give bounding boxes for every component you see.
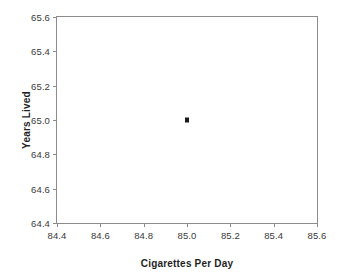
y-axis-title: Years Lived — [18, 16, 36, 224]
x-axis-tick-label: 84.6 — [91, 230, 110, 241]
scatter-plot-figure: 64.464.664.865.065.265.465.684.484.684.8… — [0, 0, 344, 280]
y-axis-tick — [53, 51, 57, 52]
x-axis-tick — [187, 223, 188, 227]
y-axis-tick — [53, 189, 57, 190]
y-axis-tick — [53, 17, 57, 18]
plot-frame: 64.464.664.865.065.265.465.684.484.684.8… — [56, 16, 318, 224]
y-axis-tick — [53, 120, 57, 121]
x-axis-tick — [274, 223, 275, 227]
x-axis-tick-label: 85.4 — [264, 230, 283, 241]
x-axis-tick — [57, 223, 58, 227]
x-axis-tick — [230, 223, 231, 227]
x-axis-tick-label: 85.0 — [178, 230, 197, 241]
x-axis-title: Cigarettes Per Day — [56, 258, 318, 269]
x-axis-tick — [144, 223, 145, 227]
y-axis-tick — [53, 154, 57, 155]
data-point-marker — [185, 118, 189, 123]
x-axis-tick-label: 84.4 — [48, 230, 67, 241]
plot-area — [57, 17, 317, 223]
x-axis-tick — [100, 223, 101, 227]
x-axis-tick-label: 85.2 — [221, 230, 240, 241]
x-axis-tick-label: 85.6 — [308, 230, 327, 241]
y-axis-tick — [53, 86, 57, 87]
x-axis-tick — [317, 223, 318, 227]
x-axis-tick-label: 84.8 — [134, 230, 153, 241]
